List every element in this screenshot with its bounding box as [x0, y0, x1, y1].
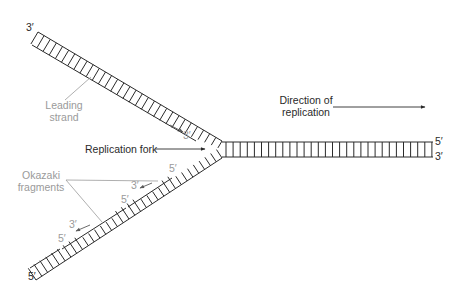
okazaki-label-line2: fragments	[14, 181, 68, 193]
okazaki-label-line1: Okazaki	[14, 169, 68, 181]
fragment1-3prime-label: 3′	[131, 179, 139, 191]
bottom-left-5prime-label: 5′	[28, 270, 36, 282]
direction-label-line1: Direction of	[270, 94, 342, 106]
top-left-3prime-label: 3′	[26, 21, 34, 33]
okazaki-growth-arrow-1	[140, 183, 152, 188]
direction-label-line2: replication	[270, 106, 342, 118]
okazaki-fragments-label: Okazaki fragments	[14, 169, 68, 193]
fragment3-5prime-label: 5′	[58, 232, 66, 244]
okazaki-growth-arrow-2	[76, 225, 90, 231]
fragment1-5prime-label: 5′	[169, 162, 177, 174]
okazaki-pointer-2	[66, 180, 102, 222]
fragment2-5prime-label: 5′	[121, 193, 129, 205]
leading-strand-pointer	[65, 77, 91, 100]
duplex-bottom-3prime-label: 3′	[435, 150, 443, 162]
leading-strand-label-line1: Leading	[38, 99, 90, 111]
leading-strand-label: Leading strand	[38, 99, 90, 123]
fragment2-3prime-label: 3′	[69, 218, 77, 230]
leading-strand-label-line2: strand	[38, 111, 90, 123]
leading-primer-3prime-label: 3′	[183, 129, 191, 141]
okazaki-pointer-1	[66, 180, 158, 181]
upper-parental-strand	[31, 32, 222, 148]
leading-strand	[32, 45, 196, 141]
duplex-top-5prime-label: 5′	[435, 135, 443, 147]
direction-of-replication-label: Direction of replication	[270, 94, 342, 118]
parental-duplex	[222, 142, 433, 157]
replication-fork-label: Replication fork	[85, 143, 157, 155]
replication-fork-diagram	[0, 0, 452, 294]
